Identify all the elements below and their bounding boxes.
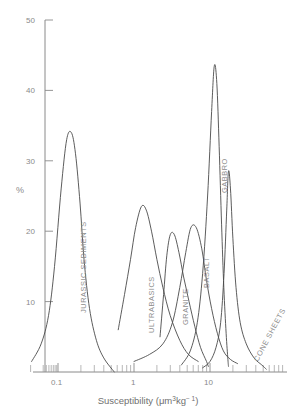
x-tick-label-0-1: 0.1 (51, 378, 63, 387)
susceptibility-distribution-chart: 50 40 30 20 10 % (0, 0, 297, 414)
y-tick-label-30: 30 (26, 157, 35, 166)
y-axis-tick-labels: 50 40 30 20 10 (26, 16, 35, 307)
curve-label-gabbro: GABBRO (220, 158, 229, 193)
x-tick-label-10: 10 (204, 378, 213, 387)
x-axis-title-close: ) (195, 395, 198, 406)
chart-svg: 50 40 30 20 10 % (0, 0, 297, 414)
curve-jurassic-sediments (32, 131, 115, 372)
y-axis-title: % (16, 185, 24, 195)
x-axis-title-mid: kg (176, 395, 186, 406)
y-tick-label-40: 40 (26, 86, 35, 95)
x-tick-label-1: 1 (131, 378, 136, 387)
curve-label-jurassic-sediments: JURASSIC SEDIMENTS (79, 221, 88, 313)
curve-labels: JURASSIC SEDIMENTS ULTRABASICS GRANITE B… (79, 158, 287, 363)
y-axis-ticks (45, 20, 53, 302)
curve-cone-sheets (203, 171, 267, 370)
curve-ultrabasics (118, 205, 198, 361)
x-axis-ticks (31, 363, 283, 372)
x-axis-title-sup-minus1: − 1 (186, 395, 196, 402)
x-axis-tick-labels: 0.1 1 10 (51, 378, 213, 387)
curve-label-ultrabasics: ULTRABASICS (147, 276, 156, 333)
x-axis-title-main: Susceptibility (μm (98, 395, 173, 406)
curve-label-granite: GRANITE (181, 288, 190, 325)
y-tick-label-50: 50 (26, 16, 35, 25)
x-axis-title: Susceptibility (μm3kg− 1) (98, 395, 199, 407)
curve-label-basalt: BASALT (202, 257, 211, 288)
curve-label-cone-sheets: CONE SHEETS (252, 307, 288, 363)
y-tick-label-20: 20 (26, 227, 35, 236)
y-tick-label-10: 10 (26, 298, 35, 307)
